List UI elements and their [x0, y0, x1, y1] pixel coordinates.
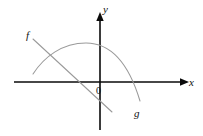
curve-label-f: f	[26, 29, 31, 41]
x-axis-label: x	[188, 76, 194, 88]
figure-container: x y 0 f g	[0, 0, 203, 136]
parabola-curve-g	[33, 43, 140, 101]
x-axis-arrow-icon	[180, 78, 189, 86]
coordinate-plane-figure: x y 0 f g	[0, 0, 203, 136]
origin-label: 0	[96, 85, 101, 96]
y-axis-label: y	[102, 3, 108, 15]
curve-label-g: g	[134, 107, 140, 119]
